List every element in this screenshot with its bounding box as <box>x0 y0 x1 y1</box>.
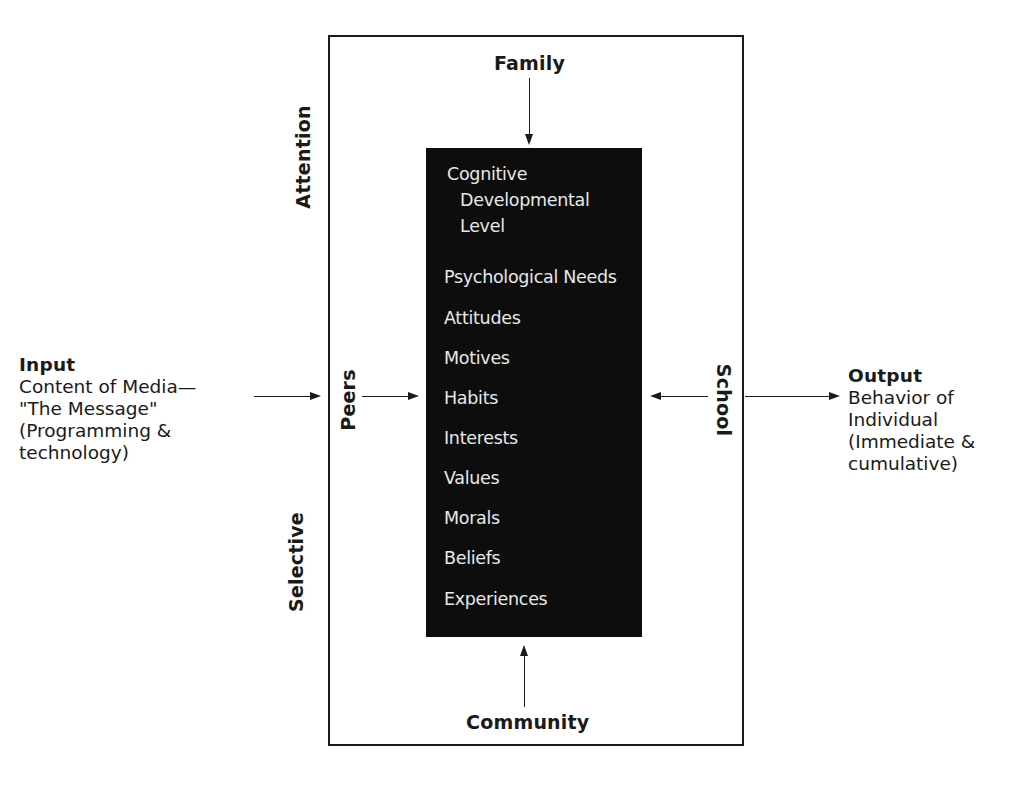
family-label: Family <box>494 52 565 74</box>
core-item-developmental: Developmental <box>460 190 590 210</box>
output-line-1: Behavior of <box>848 387 975 409</box>
core-item-habits: Habits <box>444 388 498 408</box>
output-line-2: Individual <box>848 409 975 431</box>
peers-label: Peers <box>337 369 359 430</box>
attention-label: Attention <box>292 105 314 208</box>
output-block: Output Behavior of Individual (Immediate… <box>848 365 975 475</box>
input-title: Input <box>19 354 196 376</box>
core-item-cognitive: Cognitive <box>447 164 527 184</box>
core-item-psychological-needs: Psychological Needs <box>444 267 617 287</box>
selective-label: Selective <box>285 512 307 612</box>
core-item-beliefs: Beliefs <box>444 548 500 568</box>
output-title: Output <box>848 365 975 387</box>
core-item-interests: Interests <box>444 428 518 448</box>
input-line-2: "The Message" <box>19 398 196 420</box>
community-label: Community <box>466 711 589 733</box>
input-line-3: (Programming & <box>19 420 196 442</box>
core-item-values: Values <box>444 468 499 488</box>
output-line-4: cumulative) <box>848 453 975 475</box>
individual-characteristics-box: Cognitive Developmental Level Psychologi… <box>426 148 642 637</box>
core-item-level: Level <box>460 216 505 236</box>
school-label: School <box>713 364 735 436</box>
input-line-1: Content of Media— <box>19 376 196 398</box>
input-line-4: technology) <box>19 442 196 464</box>
core-item-morals: Morals <box>444 508 500 528</box>
core-item-motives: Motives <box>444 348 510 368</box>
core-item-attitudes: Attitudes <box>444 308 521 328</box>
input-block: Input Content of Media— "The Message" (P… <box>19 354 196 464</box>
output-line-3: (Immediate & <box>848 431 975 453</box>
core-item-experiences: Experiences <box>444 589 547 609</box>
